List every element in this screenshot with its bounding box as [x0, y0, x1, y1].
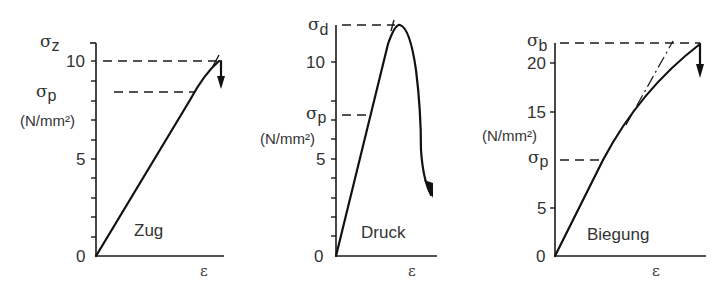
tick-label-0: 0: [76, 247, 85, 266]
sigma-b-label: σb: [527, 30, 548, 54]
chart-title-druck: Druck: [361, 223, 406, 242]
sigma-d-label: σd: [308, 14, 329, 38]
sigma-p-label: σp: [36, 81, 57, 104]
tick-label-5: 5: [316, 150, 325, 169]
sigma-p-label: σp: [528, 147, 549, 170]
tick-label-10: 10: [306, 53, 325, 72]
x-axis-label-epsilon: ε: [408, 262, 416, 280]
stress-strain-figure: σz 10 σp (N/mm²) 5 0 Zug ε σd 10 σp (: [0, 0, 726, 284]
stress-strain-curve: [336, 25, 431, 256]
chart-biegung: σb 20 15 (N/mm²) σp 5 0 Biegung ε: [482, 30, 706, 280]
sigma-z-label: σz: [40, 31, 60, 54]
x-axis-label-epsilon: ε: [652, 262, 660, 280]
tick-label-15: 15: [527, 103, 546, 122]
tick-label-5: 5: [76, 150, 85, 169]
chart-title-zug: Zug: [134, 221, 163, 240]
tick-label-0: 0: [536, 247, 545, 266]
chart-druck: σd 10 σp (N/mm²) 5 0 Druck ε: [260, 14, 437, 280]
unit-label: (N/mm²): [482, 127, 537, 144]
sigma-p-label: σp: [306, 103, 327, 126]
tick-label-20: 20: [527, 54, 546, 73]
tick-label-5: 5: [537, 199, 546, 218]
chart-title-biegung: Biegung: [587, 225, 649, 244]
tick-label-0: 0: [314, 247, 323, 266]
tick-label-10: 10: [66, 52, 85, 71]
unit-label: (N/mm²): [260, 130, 315, 147]
x-axis-label-epsilon: ε: [200, 262, 208, 280]
chart-zug: σz 10 σp (N/mm²) 5 0 Zug ε: [20, 31, 225, 280]
arrow-down-icon: [217, 76, 225, 89]
unit-label: (N/mm²): [20, 112, 75, 129]
arrow-down-icon: [696, 64, 704, 78]
